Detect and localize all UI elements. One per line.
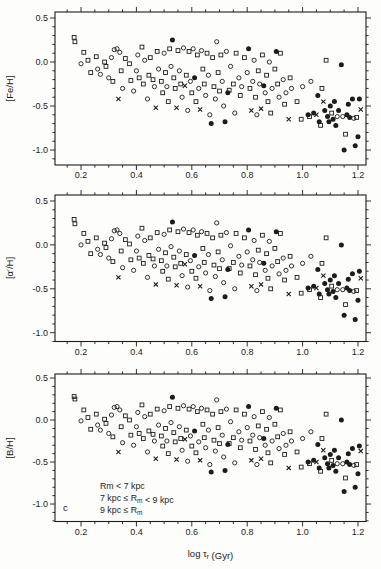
data-point-filled-circle (339, 62, 344, 67)
data-point-filled-circle (315, 442, 320, 447)
data-point-open-square (155, 231, 159, 235)
y-tick-label: 0.0 (35, 240, 48, 250)
data-point-cross (287, 292, 291, 296)
data-point-filled-circle (336, 455, 341, 460)
data-point-open-square (141, 261, 145, 265)
data-point-open-square (248, 87, 252, 91)
data-point-filled-circle (274, 406, 279, 411)
data-point-open-square (202, 261, 206, 265)
data-point-filled-circle (225, 442, 230, 447)
data-point-filled-circle (192, 75, 197, 80)
y-tick-label: -0.5 (32, 101, 48, 111)
data-point-open-circle (199, 48, 203, 52)
data-point-open-square (161, 269, 165, 273)
data-point-open-circle (79, 419, 83, 423)
data-point-open-square (269, 287, 273, 291)
three-panel-scatter-figure: 0.20.40.60.81.01.20.50.0-0.5-1.00.20.40.… (0, 0, 381, 569)
data-point-cross (359, 276, 363, 280)
data-point-open-square (248, 264, 252, 268)
data-point-open-circle (169, 64, 173, 68)
data-point-open-circle (120, 266, 124, 270)
data-point-open-square (94, 236, 98, 240)
data-point-cross (183, 84, 187, 88)
data-point-open-circle (107, 256, 111, 260)
data-point-open-circle (237, 76, 241, 80)
data-point-open-square (212, 263, 216, 267)
data-point-open-circle (197, 440, 201, 444)
data-point-open-square (190, 444, 194, 448)
data-point-open-square (201, 247, 205, 251)
data-point-open-square (166, 100, 170, 104)
data-point-open-square (148, 412, 152, 416)
data-point-open-circle (98, 428, 102, 432)
data-point-open-circle (165, 85, 169, 89)
data-point-open-circle (143, 238, 147, 242)
data-point-open-circle (96, 67, 100, 71)
data-point-open-square (261, 53, 265, 57)
data-point-open-square (256, 69, 260, 73)
data-point-filled-circle (342, 489, 347, 494)
data-point-open-square (176, 49, 180, 53)
data-point-open-square (166, 452, 170, 456)
data-point-open-circle (281, 78, 285, 82)
data-point-filled-circle (170, 37, 175, 42)
data-point-open-square (72, 35, 76, 39)
data-point-filled-circle (170, 395, 175, 400)
data-point-open-circle (180, 274, 184, 278)
data-point-open-circle (109, 413, 113, 417)
y-tick-label: -1.0 (32, 145, 48, 155)
data-point-open-square (231, 436, 235, 440)
x-tick-label: 1.0 (296, 527, 309, 537)
data-point-open-square (295, 450, 299, 454)
data-point-cross (198, 107, 202, 111)
data-point-open-square (128, 418, 132, 422)
data-point-open-square (190, 91, 194, 95)
data-point-open-circle (240, 438, 244, 442)
data-point-open-square (269, 461, 273, 465)
data-point-open-circle (277, 446, 281, 450)
x-tick-label: 0.8 (241, 170, 254, 180)
data-point-open-circle (143, 415, 147, 419)
data-point-open-square (238, 94, 242, 98)
data-point-open-circle (300, 85, 304, 89)
data-point-open-square (273, 422, 277, 426)
data-point-open-circle (181, 227, 185, 231)
data-point-open-square (166, 277, 170, 281)
legend-line: 9 kpc ≤ Rm (100, 505, 143, 516)
x-tick-label: 0.2 (75, 527, 88, 537)
y-tick-label: 0.5 (35, 13, 48, 23)
x-tick-label: 1.0 (296, 347, 309, 357)
data-point-open-square (104, 246, 108, 250)
data-point-open-square (173, 265, 177, 269)
data-point-cross (154, 457, 158, 461)
data-point-open-circle (245, 70, 249, 74)
data-point-open-circle (181, 46, 185, 50)
data-point-open-circle (169, 420, 173, 424)
data-point-open-circle (220, 258, 224, 262)
data-point-filled-circle (355, 298, 360, 303)
data-point-open-square (320, 437, 324, 441)
data-point-filled-circle (353, 317, 358, 322)
data-point-open-square (238, 446, 242, 450)
data-point-open-square (201, 422, 205, 426)
data-point-open-square (119, 69, 123, 73)
data-point-open-circle (143, 58, 147, 62)
data-point-open-square (273, 247, 277, 251)
data-point-open-circle (289, 439, 293, 443)
data-point-open-circle (191, 228, 195, 232)
y-axis-label-b: [B/H] (4, 437, 15, 458)
data-point-open-circle (251, 433, 255, 437)
data-point-cross (287, 117, 291, 121)
data-point-open-square (231, 82, 235, 86)
data-point-filled-circle (274, 229, 279, 234)
data-point-open-square (238, 271, 242, 275)
data-point-open-square (187, 231, 191, 235)
data-point-open-circle (270, 439, 274, 443)
data-point-open-circle (220, 433, 224, 437)
data-point-cross (321, 274, 325, 278)
data-point-open-circle (237, 430, 241, 434)
data-point-open-square (89, 427, 93, 431)
data-point-open-square (86, 239, 90, 243)
data-point-filled-circle (347, 288, 352, 293)
data-point-open-circle (204, 271, 208, 275)
